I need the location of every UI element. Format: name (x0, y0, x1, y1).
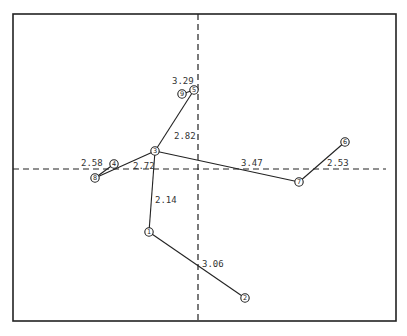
edge-label-8-4: 2.58 (81, 158, 103, 168)
edge-label-3-1: 2.14 (155, 195, 177, 205)
node-1: 1 (145, 228, 153, 237)
node-label: 1 (147, 228, 151, 236)
edge-label-8-3: 2.72 (133, 161, 155, 171)
edge-label-1-2: 3.06 (202, 259, 224, 269)
ordination-diagram: 123456789 (0, 0, 407, 336)
edge-label-9-5: 3.29 (172, 76, 194, 86)
node-label: 8 (93, 174, 97, 182)
node-7: 7 (295, 178, 303, 187)
node-label: 3 (153, 147, 157, 155)
node-label: 6 (343, 138, 347, 146)
node-6: 6 (341, 138, 349, 147)
node-label: 7 (297, 178, 301, 186)
node-3: 3 (151, 147, 159, 156)
edge-1-2 (149, 232, 245, 298)
node-label: 5 (192, 86, 196, 94)
node-9: 9 (178, 90, 186, 99)
edge-label-3-7: 3.47 (241, 158, 263, 168)
node-4: 4 (110, 160, 118, 169)
node-8: 8 (91, 174, 99, 183)
edge-label-5-3: 2.82 (174, 131, 196, 141)
node-label: 4 (112, 160, 116, 168)
node-5: 5 (190, 86, 198, 95)
edge-5-3 (155, 90, 194, 151)
node-2: 2 (241, 294, 249, 303)
node-label: 9 (180, 90, 184, 98)
edge-3-7 (155, 151, 299, 182)
node-group: 123456789 (91, 86, 349, 303)
edge-label-7-6: 2.53 (327, 158, 349, 168)
node-label: 2 (243, 294, 247, 302)
